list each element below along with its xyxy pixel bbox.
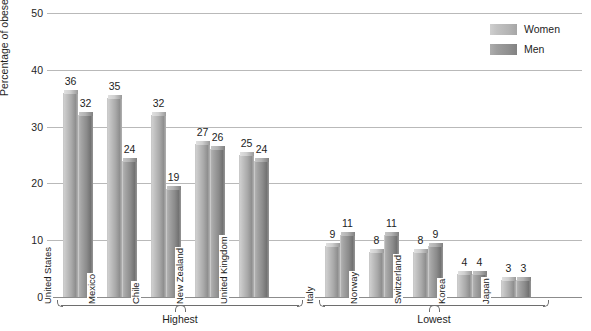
gridline-40	[47, 70, 582, 71]
bar-chile-women	[151, 115, 166, 297]
obesity-bar-chart: Women Men Percentage of obese adults 010…	[0, 0, 591, 331]
bar-united-states-women	[63, 93, 78, 297]
bar-value-label: 24	[117, 144, 143, 155]
group-label-lowest: Lowest	[319, 313, 549, 325]
category-label-italy: Italy	[305, 286, 315, 305]
bar-cap	[326, 243, 340, 247]
bar-italy-women	[325, 246, 340, 297]
bar-cap	[370, 249, 384, 253]
bar-cap	[473, 271, 487, 275]
bar-cap	[414, 249, 428, 253]
brace-end-right	[297, 300, 303, 307]
plot-area: 3632United States3524Mexico3219Chile2726…	[47, 0, 582, 297]
bar-cap	[502, 277, 516, 281]
y-tick-label-0: 0	[9, 292, 43, 302]
bar-value-label: 26	[205, 132, 231, 143]
y-tick-label-10: 10	[9, 235, 43, 245]
bar-value-label: 36	[58, 76, 84, 87]
bar-japan-men	[516, 280, 531, 297]
brace-center-right	[180, 305, 186, 312]
bar-value-label: 3	[511, 263, 537, 274]
bar-cap	[341, 232, 355, 236]
bar-value-label: 11	[379, 218, 405, 229]
category-label-switzerland: Switzerland	[393, 254, 403, 305]
bar-japan-women	[501, 280, 516, 297]
bar-new-zealand-women	[195, 144, 210, 297]
gridline-50	[47, 13, 582, 14]
bar-cap	[458, 271, 472, 275]
y-tick-label-50: 50	[9, 8, 43, 18]
bar-value-label: 35	[102, 81, 128, 92]
bar-cap	[211, 146, 225, 150]
bar-united-kingdom-men	[254, 161, 269, 297]
bar-cap	[108, 95, 122, 99]
brace-center-right	[434, 305, 440, 312]
bar-united-states-men	[78, 115, 93, 297]
bar-value-label: 32	[146, 98, 172, 109]
bar-united-kingdom-women	[239, 155, 254, 297]
category-label-united-states: United States	[43, 246, 53, 305]
bar-cap	[152, 112, 166, 116]
bar-cap	[64, 90, 78, 94]
brace-highest	[57, 300, 303, 311]
bar-value-label: 19	[161, 172, 187, 183]
bar-cap	[429, 243, 443, 247]
y-tick-label-20: 20	[9, 178, 43, 188]
bar-cap	[517, 277, 531, 281]
y-axis-ticks: 01020304050	[0, 0, 43, 297]
y-tick-label-40: 40	[9, 65, 43, 75]
bar-value-label: 4	[467, 257, 493, 268]
bar-korea-women	[457, 274, 472, 297]
category-label-new-zealand: New Zealand	[175, 247, 185, 305]
bar-cap	[123, 158, 137, 162]
brace-lowest	[319, 300, 549, 311]
category-label-united-kingdom: United Kingdom	[219, 235, 229, 305]
group-label-highest: Highest	[57, 313, 303, 325]
bar-value-label: 11	[335, 218, 361, 229]
bar-cap	[385, 232, 399, 236]
bar-cap	[255, 158, 269, 162]
gridline-30	[47, 127, 582, 128]
bar-cap	[167, 186, 181, 190]
bar-mexico-men	[122, 161, 137, 297]
bar-value-label: 24	[249, 144, 275, 155]
bar-mexico-women	[107, 98, 122, 297]
bar-value-label: 9	[423, 229, 449, 240]
bar-switzerland-women	[413, 252, 428, 297]
bar-norway-women	[369, 252, 384, 297]
bar-cap	[79, 112, 93, 116]
brace-end-right	[543, 300, 549, 307]
y-tick-label-30: 30	[9, 122, 43, 132]
bar-value-label: 32	[73, 98, 99, 109]
